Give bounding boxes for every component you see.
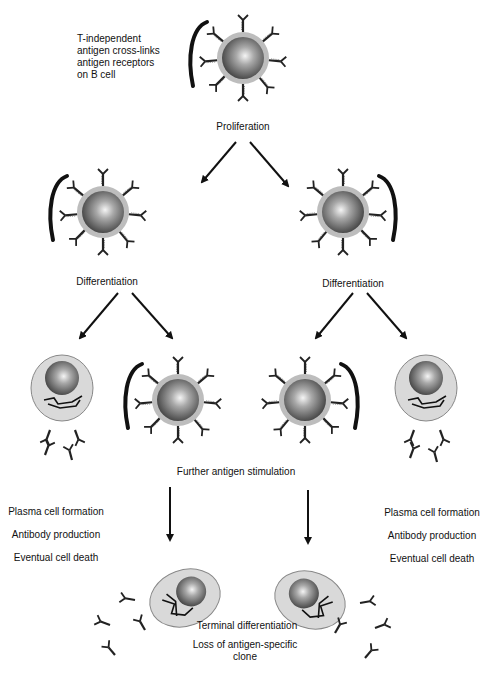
right-outcome-3: Eventual cell death [384, 553, 480, 565]
proliferation-arrows [202, 142, 288, 186]
right-outcome-2: Antibody production [384, 530, 480, 542]
right-plasma-cell [395, 355, 457, 463]
stimulation-arrows [170, 487, 308, 543]
left-outcome-1: Plasma cell formation [8, 506, 104, 518]
right-outcome-1: Plasma cell formation [384, 507, 480, 519]
loss-line-1: Loss of antigen-specific [193, 639, 298, 651]
left-b-cell [50, 169, 146, 255]
top-b-cell [190, 15, 286, 101]
b-cell-activation-diagram [0, 0, 492, 675]
further-stimulation-label: Further antigen stimulation [177, 466, 295, 478]
proliferation-label: Proliferation [216, 121, 269, 133]
differentiation-right-label: Differentiation [322, 278, 384, 290]
right-outcomes: Plasma cell formation Antibody productio… [384, 507, 480, 565]
intro-label: T-independent antigen cross-links antige… [77, 33, 160, 81]
right-b-cell [300, 169, 396, 255]
left-row3-b-cell [125, 357, 221, 443]
loss-line-2: clone [193, 651, 298, 663]
differentiation-left-label: Differentiation [76, 276, 138, 288]
terminal-label: Terminal differentiation [197, 620, 297, 632]
left-outcomes: Plasma cell formation Antibody productio… [8, 506, 104, 564]
intro-line-4: on B cell [77, 69, 160, 81]
intro-line-3: antigen receptors [77, 57, 160, 69]
loss-label: Loss of antigen-specific clone [193, 639, 298, 663]
intro-line-2: antigen cross-links [77, 45, 160, 57]
left-outcome-3: Eventual cell death [8, 552, 104, 564]
left-plasma-cell [31, 355, 93, 461]
differentiation-arrows [80, 293, 406, 338]
left-outcome-2: Antibody production [8, 529, 104, 541]
intro-line-1: T-independent [77, 33, 160, 45]
right-row3-b-cell [262, 357, 358, 443]
